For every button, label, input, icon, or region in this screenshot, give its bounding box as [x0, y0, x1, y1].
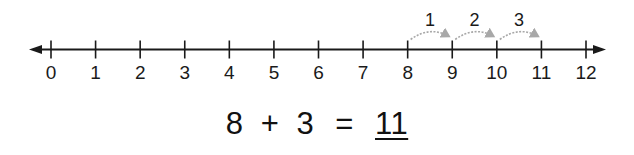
addend-1: 8 — [226, 106, 244, 142]
tick-label: 5 — [269, 62, 280, 83]
tick-label: 9 — [447, 62, 458, 83]
jump-label: 3 — [514, 10, 524, 30]
answer: 11 — [375, 106, 408, 142]
right-arrow-icon — [593, 45, 606, 54]
number-line-axis — [29, 45, 606, 54]
tick-label: 12 — [575, 62, 596, 83]
tick-label: 2 — [135, 62, 146, 83]
left-arrow-icon — [29, 45, 42, 54]
jump-arc-icon — [411, 32, 450, 40]
jump-label: 2 — [470, 10, 480, 30]
jump-label: 1 — [425, 10, 435, 30]
equals-sign: = — [335, 106, 354, 142]
jump-arc-icon — [500, 32, 539, 40]
tick-label: 0 — [46, 62, 57, 83]
plus-sign: + — [261, 106, 280, 142]
tick-label: 4 — [224, 62, 235, 83]
tick-label: 10 — [486, 62, 507, 83]
equation: 8 + 3 = 11 — [0, 106, 634, 142]
tick-label: 6 — [313, 62, 324, 83]
jump-arcs: 123 — [411, 10, 539, 40]
tick-label: 8 — [402, 62, 413, 83]
addend-2: 3 — [296, 106, 314, 142]
tick-label: 3 — [179, 62, 190, 83]
jump-arc-icon — [455, 32, 494, 40]
number-line-labels: 0123456789101112 — [46, 62, 597, 83]
tick-label: 7 — [358, 62, 369, 83]
tick-label: 1 — [90, 62, 101, 83]
number-line-diagram: 0123456789101112 123 — [0, 0, 634, 100]
tick-label: 11 — [532, 62, 552, 83]
